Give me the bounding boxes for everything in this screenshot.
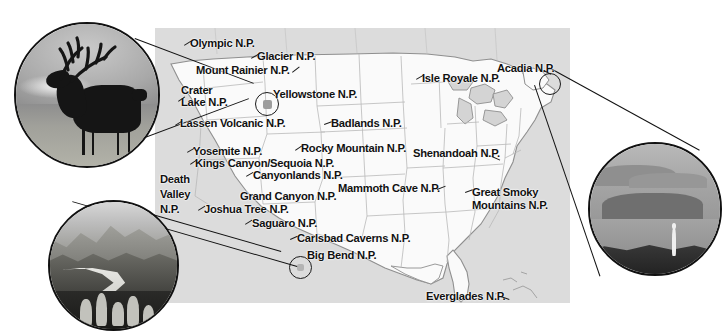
leader-line-acadia-upper [549,67,700,151]
bigbend-photo-sky [50,202,177,329]
label-isle-royale: Isle Royale N.P. [422,73,500,85]
label-grand-canyon: Grand Canyon N.P. [240,191,336,203]
label-mammoth-cave: Mammoth Cave N.P. [338,183,440,195]
marker-fill [297,264,304,271]
label-big-bend: Big Bend N.P. [307,250,376,262]
label-lassen: Lassen Volcanic N.P. [180,118,285,130]
label-great-smoky: Great Smoky Mountains N.P. [472,186,548,212]
bigbend-cactus [143,305,154,327]
elk-antlers-shape [16,24,160,168]
label-acadia: Acadia N.P. [497,63,554,75]
acadia-person-figure [672,227,676,256]
label-olympic: Olympic N.P. [190,38,255,50]
label-everglades: Everglades N.P. [426,291,505,303]
acadia-person-head [672,223,676,229]
label-saguaro: Saguaro N.P. [252,218,317,230]
label-yellowstone: Yellowstone N.P. [273,89,357,101]
label-badlands: Badlands N.P. [331,118,402,130]
photo-yellowstone-elk[interactable] [14,22,160,168]
label-carlsbad: Carlsbad Caverns N.P. [297,233,410,245]
elk-photo-sky [16,24,158,166]
label-death-valley: Death Valley N.P. [160,172,190,217]
marker-acadia[interactable] [539,73,561,95]
label-crater-lake: Crater Lake N.P. [181,85,228,108]
bigbend-cactus [127,296,138,326]
national-parks-map-figure: Olympic N.P. Glacier N.P. Mount Rainier … [0,0,725,331]
bigbend-cactus [96,293,107,326]
acadia-island [602,193,703,222]
label-kings-sequoia: Kings Canyon/Sequoia N.P. [195,158,334,170]
label-shenandoah: Shenandoah N.P. [413,148,500,160]
photo-big-bend-river[interactable] [48,200,179,331]
acadia-water [590,219,720,250]
photo-acadia-coast[interactable] [588,142,722,276]
label-glacier: Glacier N.P. [257,51,315,63]
label-yosemite: Yosemite N.P. [193,146,262,158]
bigbend-cactus [112,302,123,326]
label-rocky-mountain: Rocky Mountain N.P. [301,143,406,155]
bigbend-cactus [80,299,91,327]
label-canyonlands: Canyonlands N.P. [253,170,343,182]
acadia-far-headland-2 [629,173,707,189]
acadia-photo-sky [590,144,720,274]
label-joshua-tree: Joshua Tree N.P. [204,204,289,216]
label-mount-rainier: Mount Rainier N.P. [196,65,290,77]
marker-fill [263,100,272,109]
